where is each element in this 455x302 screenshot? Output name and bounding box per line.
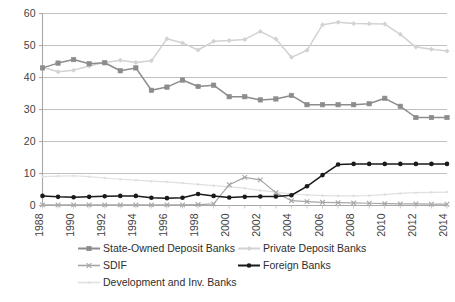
data-point — [320, 173, 325, 178]
data-point — [398, 162, 403, 167]
data-point — [383, 193, 386, 196]
data-point — [227, 95, 231, 99]
x-tick-label-2000: 2000 — [219, 213, 231, 237]
data-point — [337, 195, 340, 198]
data-point — [118, 69, 122, 73]
data-point — [242, 195, 247, 200]
legend-marker-diamond-icon — [247, 246, 252, 251]
data-point — [351, 162, 356, 167]
data-point — [102, 194, 107, 199]
legend-item-development-and-inv-banks[interactable]: Development and Inv. Banks — [78, 276, 236, 288]
data-point — [211, 83, 215, 87]
data-point — [134, 194, 139, 199]
data-point — [197, 183, 200, 186]
x-tick-label-1992: 1992 — [95, 213, 107, 237]
data-point — [274, 194, 279, 199]
data-point — [118, 194, 123, 199]
x-tick-label-1996: 1996 — [157, 213, 169, 237]
data-point — [367, 162, 372, 167]
data-point — [306, 194, 309, 197]
data-point — [180, 196, 185, 201]
legend-item-state-owned-deposit-banks[interactable]: State-Owned Deposit Banks — [78, 242, 235, 254]
y-axis-tick-labels: 0102030405060 — [24, 7, 36, 211]
data-point — [40, 194, 45, 199]
legend-label: Private Deposit Banks — [263, 242, 366, 254]
legend-label: SDIF — [103, 259, 127, 271]
data-point — [367, 21, 372, 26]
data-point — [415, 191, 418, 194]
series-line — [43, 177, 448, 205]
legend-item-private-deposit-banks[interactable]: Private Deposit Banks — [238, 242, 366, 254]
data-point — [87, 62, 91, 66]
data-point — [71, 195, 76, 200]
data-point — [103, 61, 107, 65]
series-state-owned-deposit-banks — [40, 57, 449, 119]
y-tick-label-30: 30 — [24, 103, 36, 115]
data-point — [72, 174, 75, 177]
y-tick-label-10: 10 — [24, 167, 36, 179]
data-point — [399, 192, 402, 195]
data-point — [134, 66, 138, 70]
data-point — [321, 194, 324, 197]
data-point — [57, 175, 60, 178]
data-point — [56, 69, 61, 74]
data-point — [445, 48, 450, 53]
series-line — [43, 164, 448, 198]
data-point — [446, 191, 449, 194]
data-point — [87, 195, 92, 200]
data-point — [181, 182, 184, 185]
x-tick-label-2014: 2014 — [437, 213, 449, 237]
legend-label: Foreign Banks — [263, 259, 331, 271]
x-tick-label-1988: 1988 — [33, 213, 45, 237]
data-point — [133, 60, 138, 65]
data-point — [336, 103, 340, 107]
data-point — [320, 103, 324, 107]
x-tick-label-1994: 1994 — [126, 213, 138, 237]
data-point — [398, 104, 402, 108]
x-tick-label-2008: 2008 — [344, 213, 356, 237]
y-tick-label-40: 40 — [24, 71, 36, 83]
chart-legend: State-Owned Deposit BanksPrivate Deposit… — [78, 242, 366, 288]
legend-label: State-Owned Deposit Banks — [103, 242, 235, 254]
data-point — [135, 179, 138, 182]
data-point — [180, 78, 184, 82]
x-tick-label-1990: 1990 — [64, 213, 76, 237]
line-chart: 0102030405060 19881990199219941996199820… — [0, 0, 455, 302]
data-point — [258, 194, 263, 199]
series-private-deposit-banks — [40, 20, 450, 75]
data-point — [180, 40, 185, 45]
chart-container: 0102030405060 19881990199219941996199820… — [0, 0, 455, 302]
data-point — [430, 191, 433, 194]
legend-marker-square-icon — [87, 246, 91, 250]
data-point — [242, 37, 247, 42]
data-point — [56, 195, 61, 200]
data-point — [258, 98, 262, 102]
data-point — [196, 84, 200, 88]
data-point — [243, 187, 246, 190]
x-axis-tick-labels: 1988199019921994199619982000200220042006… — [33, 213, 450, 237]
x-tick-label-1998: 1998 — [188, 213, 200, 237]
data-point — [119, 178, 122, 181]
x-tick-label-2006: 2006 — [313, 213, 325, 237]
data-point — [429, 115, 433, 119]
data-point — [274, 97, 278, 101]
data-point — [56, 61, 60, 65]
data-point — [196, 192, 201, 197]
data-point — [243, 95, 247, 99]
data-point — [40, 66, 44, 70]
y-tick-label-60: 60 — [24, 7, 36, 19]
data-point — [71, 57, 75, 61]
data-point — [367, 102, 371, 106]
data-point — [165, 85, 169, 89]
series-sdif — [40, 175, 449, 207]
data-point — [149, 196, 154, 201]
legend-item-foreign-banks[interactable]: Foreign Banks — [238, 259, 331, 271]
data-point — [165, 196, 170, 201]
y-tick-label-0: 0 — [30, 199, 36, 211]
data-point — [351, 21, 356, 26]
x-tick-label-2012: 2012 — [406, 213, 418, 237]
x-tick-label-2002: 2002 — [250, 213, 262, 237]
data-point — [289, 193, 294, 198]
data-point — [211, 194, 216, 199]
legend-item-sdif[interactable]: SDIF — [78, 259, 127, 271]
